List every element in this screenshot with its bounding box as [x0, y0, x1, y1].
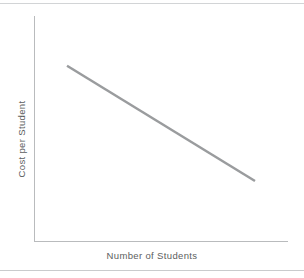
chart-figure: Cost per Student Number of Students — [0, 0, 304, 278]
series-line — [67, 66, 255, 181]
y-axis-label: Cost per Student — [16, 0, 27, 278]
x-axis-label: Number of Students — [0, 250, 304, 261]
series-layer — [0, 0, 304, 278]
